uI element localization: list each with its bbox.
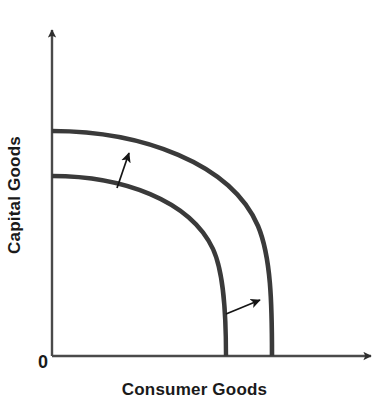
ppf-chart-figure: Capital Goods Consumer Goods 0 bbox=[0, 0, 389, 411]
ppf-curve-shifted bbox=[52, 131, 272, 356]
y-axis-label: Capital Goods bbox=[0, 120, 30, 270]
origin-label: 0 bbox=[34, 352, 52, 373]
ppf-curve-initial bbox=[52, 176, 226, 356]
x-axis-label: Consumer Goods bbox=[0, 380, 389, 400]
lower-shift-arrow bbox=[226, 300, 260, 314]
y-axis-label-text: Capital Goods bbox=[5, 136, 25, 254]
ppf-plot-svg bbox=[0, 0, 389, 411]
